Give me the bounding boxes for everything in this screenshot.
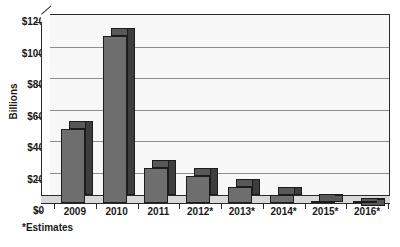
y-axis-tick-mark	[36, 211, 42, 212]
x-axis-tick-label: 2012*	[179, 206, 221, 217]
bar	[228, 179, 252, 203]
bar-front-face	[186, 176, 210, 203]
bar-side-face	[85, 121, 93, 195]
bar-side-face	[335, 194, 343, 196]
bar-chart: Billions $0$20$40$60$80$100$120 *Estimat…	[0, 0, 400, 247]
bar-side-face	[294, 187, 302, 195]
x-axis-tick-label: 2016*	[346, 206, 388, 217]
x-axis-tick-label: 2010	[96, 206, 138, 217]
bar	[144, 160, 168, 203]
x-axis-tick-label: 2011	[138, 206, 180, 217]
y-axis-tick-mark	[36, 148, 42, 149]
y-axis-tick-mark	[36, 117, 42, 118]
bar-front-face	[311, 201, 335, 203]
y-axis-tick-mark	[36, 54, 42, 55]
bar-side-face	[377, 198, 385, 200]
footnote: *Estimates	[22, 222, 73, 233]
x-axis-tick-label: 2014*	[263, 206, 305, 217]
x-axis-tick-label: 2013*	[221, 206, 263, 217]
y-axis-tick-mark	[36, 22, 42, 23]
bar-side-face	[252, 179, 260, 195]
y-axis-tick-mark	[36, 85, 42, 86]
bar	[270, 187, 294, 203]
x-axis-tick-label: 2015*	[305, 206, 347, 217]
bar-side-face	[127, 28, 135, 195]
bar-side-face	[210, 168, 218, 195]
bar-front-face	[270, 195, 294, 203]
bar-front-face	[353, 201, 377, 203]
bar	[186, 168, 210, 203]
bar-front-face	[61, 129, 85, 203]
bar	[311, 194, 335, 203]
bar-side-face	[168, 160, 176, 195]
bar	[61, 121, 85, 203]
bar	[353, 198, 377, 203]
y-axis-tick-mark	[36, 180, 42, 181]
bar-front-face	[144, 168, 168, 203]
bar-front-face	[103, 36, 127, 203]
x-axis-tick-mark	[388, 204, 389, 209]
bar	[103, 28, 127, 203]
bar-front-face	[228, 187, 252, 203]
x-axis-tick-label: 2009	[54, 206, 96, 217]
